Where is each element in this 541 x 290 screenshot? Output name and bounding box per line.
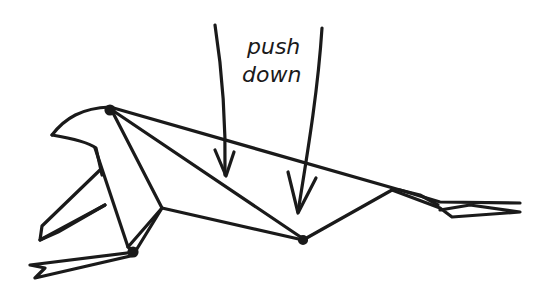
hood-inner xyxy=(52,135,102,175)
joint-dot xyxy=(300,237,307,244)
leg-lower xyxy=(40,205,105,240)
foot xyxy=(30,252,135,278)
joint-dot xyxy=(106,106,114,114)
tail-top xyxy=(400,190,438,205)
annotation-push: push xyxy=(247,34,300,60)
joint-dot xyxy=(129,248,137,256)
origami-diagram: push down xyxy=(0,0,541,290)
inner-diagonal xyxy=(112,110,305,240)
annotation-down: down xyxy=(242,62,301,88)
push-arrow-right xyxy=(298,28,322,212)
head-outline xyxy=(52,107,112,135)
leg-upper xyxy=(40,170,105,240)
bottom-edge xyxy=(162,190,392,240)
belly-line xyxy=(128,208,162,252)
back-line xyxy=(110,107,520,203)
